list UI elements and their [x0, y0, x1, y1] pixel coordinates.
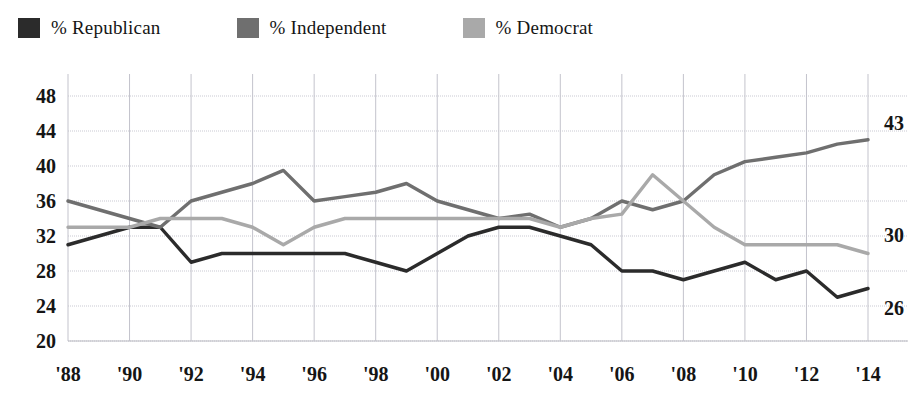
vertical-gridlines	[68, 74, 868, 341]
x-tick-02: '02	[486, 363, 512, 385]
series-line-independent	[68, 140, 868, 228]
legend-item-republican: % Republican	[18, 17, 161, 39]
x-tick-08: '08	[671, 363, 697, 385]
x-tick-94: '94	[240, 363, 266, 385]
x-tick-98: '98	[363, 363, 389, 385]
x-tick-88: '88	[55, 363, 81, 385]
y-tick-44: 44	[36, 120, 56, 142]
y-tick-36: 36	[36, 190, 56, 212]
x-tick-90: '90	[117, 363, 143, 385]
x-tick-04: '04	[548, 363, 574, 385]
x-tick-10: '10	[732, 363, 758, 385]
series-end-labels: 433026	[884, 112, 904, 319]
x-tick-92: '92	[178, 363, 204, 385]
x-tick-14: '14	[855, 363, 881, 385]
x-tick-12: '12	[794, 363, 820, 385]
plot-area: 2024283236404448 '88'90'92'94'96'98'00'0…	[0, 56, 917, 408]
x-axis-tick-labels: '88'90'92'94'96'98'00'02'04'06'08'10'12'…	[55, 363, 881, 385]
y-tick-48: 48	[36, 85, 56, 107]
data-series-group	[68, 140, 868, 298]
y-tick-40: 40	[36, 155, 56, 177]
legend-label-independent: % Independent	[270, 17, 387, 39]
gallup-party-identification-chart: % Republican % Independent % Democrat 20…	[0, 0, 917, 408]
series-line-democrat	[68, 175, 868, 254]
y-tick-28: 28	[36, 260, 56, 282]
legend-item-democrat: % Democrat	[463, 17, 593, 39]
legend-item-independent: % Independent	[237, 17, 387, 39]
democrat-end-label: 30	[884, 224, 904, 246]
y-axis-tick-labels: 2024283236404448	[36, 85, 56, 352]
legend-label-democrat: % Democrat	[496, 17, 593, 39]
legend-swatch-republican	[18, 18, 40, 38]
republican-end-label: 26	[884, 297, 904, 319]
x-tick-06: '06	[609, 363, 635, 385]
x-tick-00: '00	[424, 363, 450, 385]
legend-swatch-democrat	[463, 18, 485, 38]
y-tick-20: 20	[36, 330, 56, 352]
series-line-republican	[68, 227, 868, 297]
chart-legend: % Republican % Independent % Democrat	[0, 0, 917, 56]
y-tick-32: 32	[36, 225, 56, 247]
legend-swatch-independent	[237, 18, 259, 38]
independent-end-label: 43	[884, 112, 904, 134]
legend-label-republican: % Republican	[51, 17, 161, 39]
line-chart-svg: 2024283236404448 '88'90'92'94'96'98'00'0…	[0, 56, 917, 408]
y-tick-24: 24	[36, 295, 56, 317]
x-tick-96: '96	[301, 363, 327, 385]
